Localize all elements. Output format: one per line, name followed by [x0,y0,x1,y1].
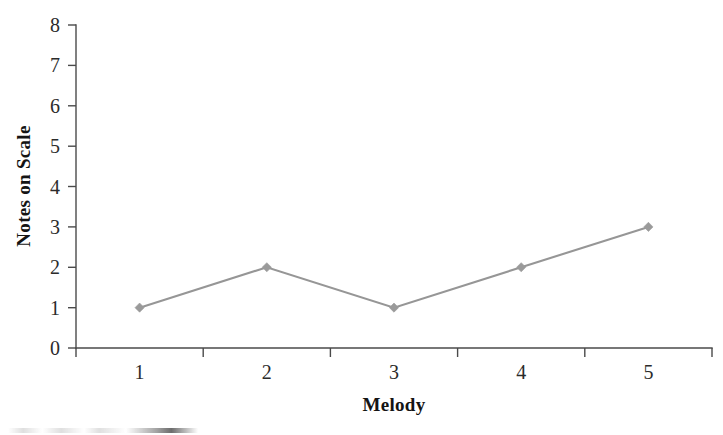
data-series-line [140,227,649,308]
y-tick-label: 6 [50,95,60,117]
data-point-marker [517,263,526,272]
y-tick-label: 8 [50,14,60,36]
x-axis-tick-labels: 1 2 3 4 5 [135,361,654,383]
y-tick-label: 4 [50,176,60,198]
y-tick-label: 1 [50,297,60,319]
x-axis-title: Melody [362,394,425,415]
x-tick-label: 1 [135,361,145,383]
y-tick-label: 2 [50,256,60,278]
chart-plot-area: 8 7 6 5 4 3 2 1 0 1 2 3 4 5 [0,0,723,435]
data-point-markers [135,222,653,312]
x-axis-ticks [76,348,712,357]
data-point-marker [135,303,144,312]
y-tick-label: 0 [50,337,60,359]
x-tick-label: 4 [516,361,526,383]
line-chart-figure: 8 7 6 5 4 3 2 1 0 1 2 3 4 5 [0,0,723,435]
data-point-marker [389,303,398,312]
y-tick-label: 3 [50,216,60,238]
x-tick-label: 5 [643,361,653,383]
y-axis-title: Notes on Scale [13,125,34,246]
x-tick-label: 2 [262,361,272,383]
y-axis-tick-labels: 8 7 6 5 4 3 2 1 0 [50,14,60,359]
y-tick-label: 7 [50,54,60,76]
y-tick-label: 5 [50,135,60,157]
data-point-marker [644,222,653,231]
data-point-marker [262,263,271,272]
x-tick-label: 3 [389,361,399,383]
y-axis-ticks [68,25,76,348]
